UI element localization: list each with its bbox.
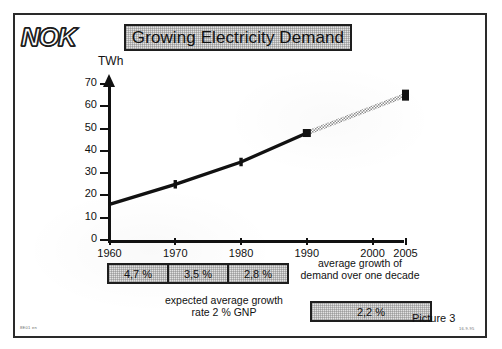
series-projected-line	[307, 95, 406, 133]
decade-growth-box: 4,7 %	[107, 263, 169, 284]
data-point-marker	[239, 158, 242, 167]
x-axis-tick-label: 1980	[229, 247, 253, 259]
electricity-demand-chart: TWh 010203040506070 19601970198019902000…	[78, 68, 428, 243]
decade-growth-row: 4,7 % 3,5 % 2,8 %	[107, 263, 287, 284]
decade-growth-value: 2,8 %	[244, 268, 272, 280]
scanned-slide-background: NOK Growing Electricity Demand TWh 01020…	[0, 0, 502, 349]
data-point-marker	[402, 90, 409, 101]
decade-growth-note: average growth of demand over one decade	[300, 258, 420, 281]
x-axis-tick-label: 1960	[97, 247, 121, 259]
data-point-marker	[303, 129, 311, 137]
decade-growth-box: 3,5 %	[167, 263, 229, 284]
projected-growth-value: 2,2 %	[357, 306, 385, 318]
picture-number-label: Picture 3	[412, 312, 455, 324]
projection-note: expected average growth rate 2 % GNP	[160, 295, 288, 318]
page-title: Growing Electricity Demand	[132, 28, 344, 48]
slide-title-box: Growing Electricity Demand	[124, 24, 352, 51]
decade-growth-value: 4,7 %	[124, 268, 152, 280]
x-axis-tick-label: 1970	[163, 247, 187, 259]
chart-series-layer	[78, 68, 428, 243]
slide-code-left: 8E01 en	[20, 325, 37, 330]
y-axis-unit-label: TWh	[98, 54, 123, 68]
nok-logo: NOK	[21, 24, 76, 50]
decade-growth-value: 3,5 %	[184, 268, 212, 280]
decade-growth-box: 2,8 %	[227, 263, 289, 284]
slide-code-right: 16.9.95	[459, 326, 474, 331]
data-point-marker	[174, 180, 177, 189]
series-actual-line	[110, 133, 307, 204]
